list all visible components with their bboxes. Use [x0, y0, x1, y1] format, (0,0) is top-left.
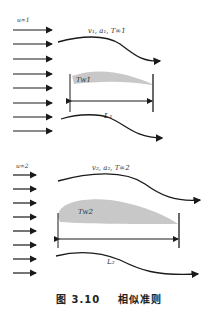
wall-temp-label-2: Tw2	[78, 208, 93, 216]
upper-streamline-1	[58, 37, 160, 61]
flow-props-label-1: v₁, a₁, T∞1	[88, 27, 126, 35]
upper-streamline-2	[58, 174, 200, 200]
figure-number: 图 3.10	[56, 294, 100, 305]
figure-caption: 图 3.10 相似准则	[0, 291, 218, 306]
body-2	[58, 199, 178, 224]
inflow-arrows-2	[13, 175, 36, 273]
panel-2: u∞2 v₂, a₂, T∞2 Tw2 L₂	[13, 162, 200, 274]
inflow-arrows-1	[13, 30, 52, 131]
wall-temp-label-1: Tw1	[76, 76, 91, 84]
figure-title: 相似准则	[118, 294, 162, 305]
flow-props-label-2: v₂, a₂, T∞2	[92, 164, 130, 172]
similarity-criteria-diagram: u∞1 v₁, a₁, T∞1 Tw1 L₁ u∞2 v₂, a₂, T∞2 T…	[0, 0, 218, 321]
length-label-2: L₂	[106, 258, 115, 266]
lower-streamline-2	[56, 253, 198, 275]
lower-streamline-1	[61, 115, 162, 138]
inflow-label-1: u∞1	[17, 16, 30, 23]
inflow-label-2: u∞2	[16, 162, 29, 169]
panel-1: u∞1 v₁, a₁, T∞1 Tw1 L₁	[13, 16, 162, 138]
